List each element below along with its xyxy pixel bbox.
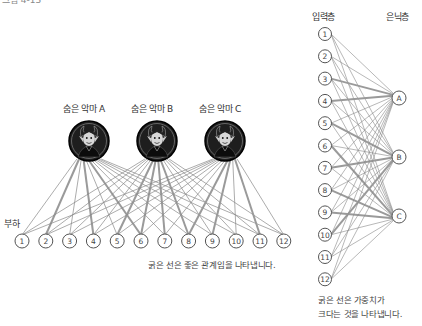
svg-text:3: 3 <box>67 237 72 246</box>
hidden-devil-b-label: 숨은 악마 B <box>131 102 173 115</box>
subordinate-node-10: 10 <box>229 234 243 248</box>
input-node-9: 9 <box>319 206 332 219</box>
input-node-5: 5 <box>319 117 332 130</box>
svg-text:12: 12 <box>279 237 289 246</box>
svg-text:7: 7 <box>162 237 167 246</box>
svg-text:2: 2 <box>43 237 48 246</box>
left-caption: 굵은 선은 좋은 관계임을 나타냅니다. <box>148 258 276 272</box>
right-links <box>331 34 393 279</box>
subordinate-node-1: 1 <box>15 234 29 248</box>
devil-icon <box>69 121 109 161</box>
svg-text:10: 10 <box>320 231 330 240</box>
input-node-4: 4 <box>319 94 332 107</box>
svg-text:1: 1 <box>20 237 25 246</box>
svg-text:8: 8 <box>186 237 191 246</box>
input-node-10: 10 <box>319 228 332 241</box>
svg-text:2: 2 <box>323 52 328 61</box>
svg-text:12: 12 <box>320 275 330 284</box>
svg-text:4: 4 <box>91 237 96 246</box>
left-links <box>22 159 284 235</box>
neural-network-diagram: 123456789101112123456789101112ABC <box>0 0 422 326</box>
svg-text:6: 6 <box>139 237 144 246</box>
svg-text:9: 9 <box>323 208 328 217</box>
svg-text:7: 7 <box>323 164 328 173</box>
subordinate-node-9: 9 <box>205 234 219 248</box>
svg-text:11: 11 <box>320 253 330 262</box>
svg-text:5: 5 <box>323 119 328 128</box>
hidden-node-C: C <box>392 209 406 223</box>
svg-text:C: C <box>396 212 401 221</box>
svg-text:A: A <box>396 94 402 103</box>
svg-text:1: 1 <box>323 30 328 39</box>
subordinate-node-3: 3 <box>63 234 77 248</box>
hidden-node-A: A <box>392 91 406 105</box>
subordinate-label: 부하 <box>4 217 19 230</box>
subordinate-node-12: 12 <box>277 234 291 248</box>
subordinate-node-5: 5 <box>110 234 124 248</box>
input-node-11: 11 <box>319 251 332 264</box>
subordinate-node-7: 7 <box>158 234 172 248</box>
svg-text:11: 11 <box>255 237 265 246</box>
input-layer-label: 입력층 <box>312 10 335 23</box>
input-node-8: 8 <box>319 184 332 197</box>
hidden-node-B: B <box>392 150 406 164</box>
subordinate-node-2: 2 <box>39 234 53 248</box>
subordinate-node-8: 8 <box>182 234 196 248</box>
right-caption-line1: 굵은 선은 가중치가 <box>318 293 384 307</box>
devil-icon <box>205 121 245 161</box>
svg-text:6: 6 <box>323 142 328 151</box>
hidden-devil-c-label: 숨은 악마 C <box>199 102 241 115</box>
right-caption-line2: 크다는 것을 나타냅니다. <box>318 307 402 321</box>
svg-text:10: 10 <box>231 237 241 246</box>
devil-icon <box>137 121 177 161</box>
svg-text:8: 8 <box>323 186 328 195</box>
subordinate-node-4: 4 <box>86 234 100 248</box>
input-node-7: 7 <box>319 161 332 174</box>
subordinate-node-11: 11 <box>253 234 267 248</box>
hidden-devil-a-label: 숨은 악마 A <box>63 102 105 115</box>
input-node-3: 3 <box>319 72 332 85</box>
svg-text:9: 9 <box>210 237 215 246</box>
svg-text:3: 3 <box>323 75 328 84</box>
input-node-12: 12 <box>319 273 332 286</box>
svg-text:4: 4 <box>323 97 328 106</box>
input-node-2: 2 <box>319 50 332 63</box>
subordinate-node-6: 6 <box>134 234 148 248</box>
input-node-1: 1 <box>319 28 332 41</box>
svg-text:5: 5 <box>115 237 120 246</box>
svg-text:B: B <box>396 153 401 162</box>
hidden-layer-label: 은닉층 <box>386 10 409 23</box>
input-node-6: 6 <box>319 139 332 152</box>
